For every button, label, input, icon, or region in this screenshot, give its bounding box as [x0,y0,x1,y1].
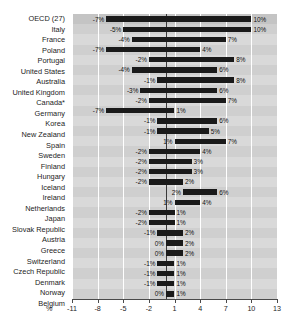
bar-value-label-high: 3% [194,168,203,175]
bar [123,27,251,32]
bar-value-label-high: 1% [177,209,186,216]
bar-value-label-high: 6% [219,66,228,73]
bar-value-label-low: -2% [136,97,147,104]
bar-value-label-low: -2% [136,158,147,165]
category-label: Finland [0,162,69,173]
category-label: Hungary [0,172,69,183]
bar [149,159,192,164]
x-axis-tick [226,299,227,303]
gridline [277,14,278,299]
bar-value-label-high: 10% [253,26,266,33]
bar [149,169,192,174]
x-axis-tick [251,299,252,303]
bar-value-label-low: 2% [172,189,181,196]
x-axis-tick-label: -11 [61,304,83,313]
bar-value-label-high: 5% [211,128,220,135]
bar [149,220,175,225]
bar-value-label-high: 1% [177,260,186,267]
bar [157,230,183,235]
bar-value-label-high: 2% [185,178,194,185]
bar-value-label-high: 7% [228,36,237,43]
category-label: Denmark [0,278,69,289]
category-label: Belgium [0,299,69,310]
plot-area: -7%10%-5%10%-4%7%-7%4%-2%8%-4%6%-1%8%-3%… [72,14,277,299]
category-label: Japan [0,214,69,225]
bar-value-label-high: 4% [202,148,211,155]
bar-value-label-high: 7% [228,138,237,145]
category-label: Slovak Republic [0,225,69,236]
bar-value-label-low: -2% [136,168,147,175]
x-axis-tick [175,299,176,303]
category-label: Netherlands [0,204,69,215]
range-bar-chart: OECD (27)ItalyFrancePolandPortugalUnited… [0,0,285,333]
bar [132,67,217,72]
category-label: Sweden [0,151,69,162]
bar [157,281,174,286]
bar [166,240,183,245]
bar-value-label-low: 1% [163,138,172,145]
gridline [251,14,252,299]
category-label-column: OECD (27)ItalyFrancePolandPortugalUnited… [0,14,69,309]
bar-value-label-low: -7% [93,107,104,114]
bar-value-label-low: -2% [136,178,147,185]
bar [183,189,217,194]
category-label: Canada* [0,98,69,109]
category-label: Italy [0,25,69,36]
category-label: Norway [0,288,69,299]
bar [157,271,174,276]
category-label: Switzerland [0,257,69,268]
bar-value-label-low: -1% [144,229,155,236]
bar [157,128,208,133]
x-axis-tick [98,299,99,303]
bar-value-label-high: 2% [185,250,194,257]
bar-value-label-high: 3% [194,158,203,165]
bar [175,200,201,205]
gridline [72,14,73,299]
x-axis-tick-label: 13 [266,304,285,313]
x-axis-unit-label: % [46,304,52,313]
bar [149,149,200,154]
x-axis-tick-label: 10 [240,304,262,313]
bar-value-label-low: 0% [155,250,164,257]
bar [140,88,217,93]
bar-value-label-low: 0% [155,240,164,247]
bar-value-label-high: 8% [236,77,245,84]
category-label: OECD (27) [0,14,69,25]
bar-value-label-low: 0% [155,290,164,297]
category-label: Germany [0,109,69,120]
bar-value-label-high: 2% [185,240,194,247]
x-axis-tick-label: 7 [215,304,237,313]
bar-value-label-high: 1% [177,290,186,297]
bar [157,77,234,82]
bar [106,47,200,52]
category-label: United States [0,67,69,78]
bar-value-label-high: 8% [236,56,245,63]
category-label: Ireland [0,193,69,204]
category-label: France [0,35,69,46]
bar-value-label-low: -2% [136,209,147,216]
bar [106,108,174,113]
bar [149,179,183,184]
gridline [123,14,124,299]
bar [157,118,217,123]
bar-value-label-low: -3% [127,87,138,94]
bar [175,139,226,144]
bar-value-label-low: -1% [144,77,155,84]
bar [106,16,251,21]
x-axis-tick [149,299,150,303]
bar-value-label-high: 1% [177,219,186,226]
bar-value-label-high: 2% [185,229,194,236]
bar [166,291,175,296]
x-axis-tick [200,299,201,303]
x-axis-tick-label: -8 [87,304,109,313]
bar-value-label-low: -2% [136,219,147,226]
bar-value-label-high: 6% [219,189,228,196]
bar-value-label-low: 1% [163,199,172,206]
bar-value-label-low: -4% [118,36,129,43]
bar-value-label-low: -1% [144,117,155,124]
category-label: New Zealand [0,130,69,141]
bar-value-label-high: 6% [219,117,228,124]
category-label: Czech Republic [0,267,69,278]
bar-value-label-high: 1% [177,280,186,287]
bar-value-label-low: -2% [136,56,147,63]
